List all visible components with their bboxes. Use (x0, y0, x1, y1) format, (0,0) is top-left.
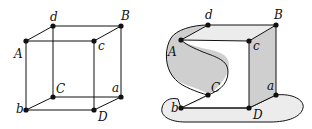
label-B: B (120, 9, 130, 23)
vertex-a (118, 94, 123, 99)
label-d: d (50, 10, 58, 24)
label-C: C (211, 81, 220, 95)
vertex-D (91, 107, 96, 112)
label-C: C (56, 82, 65, 96)
vertex-c (246, 38, 251, 43)
vertex-B (118, 23, 123, 28)
vertex-a (273, 92, 278, 97)
label-c: c (98, 39, 105, 53)
vertex-C (205, 92, 210, 97)
edge-A-d (26, 26, 53, 41)
label-c: c (253, 39, 260, 53)
cube-figure (26, 26, 121, 110)
cube-vertices (23, 23, 123, 112)
label-D: D (97, 110, 108, 124)
vertex-c (91, 38, 96, 43)
vertex-A (178, 37, 183, 42)
label-D: D (252, 108, 263, 122)
edge-b-C (26, 97, 53, 110)
vertex-C (50, 94, 55, 99)
vertex-B (273, 22, 278, 27)
label-d: d (205, 8, 213, 22)
label-a: a (112, 81, 119, 95)
vertex-b (178, 105, 183, 110)
edge-D-a (94, 97, 121, 110)
edge-b-C (181, 95, 208, 108)
label-A: A (167, 45, 177, 59)
vertex-d (50, 23, 55, 28)
vertex-d (205, 22, 210, 27)
label-b: b (16, 102, 24, 116)
label-B: B (273, 8, 283, 22)
label-a: a (267, 79, 274, 93)
diagram-canvas: A d c B b C D a (0, 0, 312, 129)
label-A: A (13, 47, 23, 61)
vertex-D (246, 105, 251, 110)
vertex-A (23, 38, 28, 43)
label-b: b (171, 101, 179, 115)
vertex-b (23, 107, 28, 112)
